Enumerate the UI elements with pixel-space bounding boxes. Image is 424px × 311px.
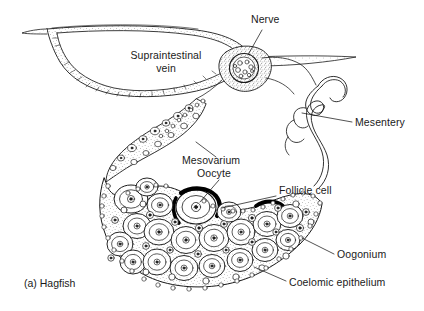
vein-left-tail <box>22 29 47 34</box>
label-supraintestinal-vein-line2: vein <box>156 62 176 74</box>
label-nerve: Nerve <box>251 13 280 26</box>
label-oocyte: Oocyte <box>197 167 231 180</box>
label-supraintestinal-vein-line1: Supraintestinal <box>131 49 202 61</box>
leader-coelomic-epithelium <box>254 267 286 281</box>
mesentery-branch-left-3 <box>285 137 289 155</box>
label-supraintestinal-vein: Supraintestinal vein <box>124 49 208 74</box>
label-mesentery: Mesentery <box>355 116 405 129</box>
label-mesovarium: Mesovarium <box>182 154 240 167</box>
figure-caption: (a) Hagfish <box>24 277 75 289</box>
oocyte-primary <box>176 190 216 224</box>
mesentery-structure <box>285 76 347 188</box>
label-follicle-cell: Follicle cell <box>279 184 332 197</box>
mesentery-loop-upper <box>318 76 347 101</box>
label-oogonium: Oogonium <box>337 248 386 261</box>
hagfish-ovary-figure: Nerve Supraintestinal vein Mesentery Mes… <box>0 0 424 311</box>
label-coelomic-epithelium: Coelomic epithelium <box>289 276 385 289</box>
mesentery-loop-upper-2 <box>322 80 345 97</box>
leader-oogonium <box>302 238 334 254</box>
mesovarium-structure <box>106 99 206 182</box>
mesentery-branch-left <box>294 108 308 128</box>
mesentery-fold-inner <box>306 86 324 186</box>
leader-mesentery <box>302 113 352 122</box>
nerve-strand-down <box>266 78 294 94</box>
